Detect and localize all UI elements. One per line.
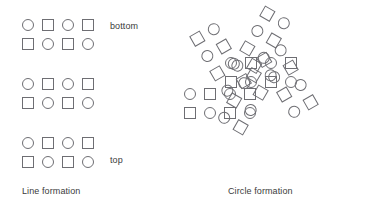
agent-square-icon [22,156,34,168]
agent-circle-icon [204,107,216,119]
agent-circle-icon [276,15,292,31]
agent-circle-icon [206,21,222,37]
agent-circle-icon [22,19,34,31]
agent-circle-icon [42,156,54,168]
agent-square-icon [225,76,237,88]
agent-square-icon [204,88,216,100]
label-top: top [110,155,123,165]
agent-square-icon [62,97,74,109]
agent-circle-icon [225,57,237,69]
agent-square-icon [82,78,94,90]
agent-circle-icon [22,78,34,90]
agent-circle-icon [62,19,74,31]
agent-square-icon [239,40,255,56]
agent-square-icon [62,38,74,50]
agent-square-icon [209,65,225,81]
agent-square-icon [42,19,54,31]
caption-circle-formation: Circle formation [228,186,293,196]
agent-circle-icon [22,137,34,149]
caption-line-formation: Line formation [22,186,80,196]
agent-circle-icon [199,48,215,64]
agent-circle-icon [42,38,54,50]
agent-square-icon [62,156,74,168]
agent-square-icon [232,119,248,135]
label-bottom: bottom [110,21,138,31]
agent-square-icon [259,6,275,22]
agent-square-icon [302,94,318,110]
agent-circle-icon [249,23,265,39]
agent-square-icon [42,137,54,149]
agent-circle-icon [286,104,302,120]
agent-square-icon [276,86,292,102]
agent-square-icon [42,78,54,90]
formation-diagram: bottom top Line formation Circle formati… [0,0,375,221]
agent-circle-icon [62,137,74,149]
agent-square-icon [22,97,34,109]
agent-circle-icon [62,78,74,90]
agent-circle-icon [42,97,54,109]
agent-square-icon [22,38,34,50]
agent-square-icon [184,107,196,119]
agent-circle-icon [82,97,94,109]
agent-square-icon [189,31,205,47]
agent-square-icon [216,38,232,54]
agent-circle-icon [82,38,94,50]
agent-circle-icon [82,156,94,168]
agent-square-icon [82,19,94,31]
agent-square-icon [82,137,94,149]
agent-circle-icon [184,88,196,100]
